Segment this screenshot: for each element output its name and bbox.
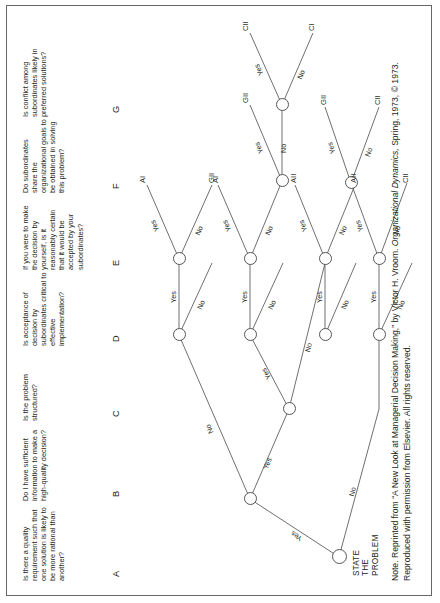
root-label-line2: THE (361, 535, 370, 576)
outcome-leaf-4: CII (241, 21, 250, 31)
decision-node-b[interactable] (244, 492, 257, 505)
outcome-leaf-10: GII (319, 95, 328, 105)
root-label-line3: PROBLEM (371, 535, 380, 576)
outcome-leaf-7: AII (289, 174, 298, 183)
tree-root-node[interactable] (332, 549, 347, 564)
outcome-leaf-11: CII (373, 95, 382, 105)
decision-node-e3[interactable] (319, 252, 332, 265)
outcome-leaf-3: AI (211, 176, 220, 183)
tree-edges (7, 6, 431, 595)
figure-page: Is there a quality requirement such that… (0, 0, 440, 603)
figure-frame: Is there a quality requirement such that… (6, 5, 432, 596)
decision-node-e4[interactable] (373, 252, 386, 265)
decision-node-f1[interactable] (276, 174, 289, 187)
decision-node-d4[interactable] (319, 328, 332, 341)
outcome-leaf-5: CI (307, 23, 316, 31)
edge-label-d4-yes: Yes (315, 291, 324, 303)
outcome-leaf-1: AI (138, 176, 147, 183)
root-label-line1: STATE (352, 535, 361, 576)
decision-node-g1[interactable] (276, 98, 289, 111)
root-label: STATE THE PROBLEM (352, 535, 380, 576)
outcome-leaf-6: GII (241, 93, 250, 103)
decision-node-e1[interactable] (173, 252, 186, 265)
outcome-leaf-9: CII (401, 173, 410, 183)
decision-node-c[interactable] (283, 402, 296, 415)
rotated-diagram-stage: Is there a quality requirement such that… (7, 6, 431, 595)
edge-label-d3-yes: Yes (240, 291, 249, 303)
edge-label-d1-yes: Yes (369, 291, 378, 303)
decision-node-e2[interactable] (244, 252, 257, 265)
decision-node-d3[interactable] (244, 328, 257, 341)
outcome-leaf-8: AII (349, 174, 358, 183)
decision-node-d1[interactable] (373, 328, 386, 341)
decision-node-d2[interactable] (173, 328, 186, 341)
edge-label-f1-no: No (279, 144, 288, 153)
edge-label-d2-yes: Yes (169, 291, 178, 303)
